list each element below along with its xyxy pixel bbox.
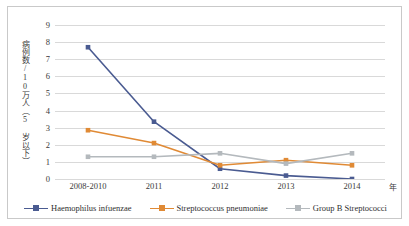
y-tick-label: 9: [46, 21, 50, 30]
data-point-marker: [350, 163, 355, 168]
y-tick-label: 4: [46, 106, 50, 115]
gridline: [55, 179, 385, 180]
y-tick-label: 0: [46, 175, 50, 184]
legend-item[interactable]: Haemophilus infuenzae: [24, 203, 131, 213]
y-tick-label: 1: [46, 158, 50, 167]
data-point-marker: [86, 45, 91, 50]
chart-legend: Haemophilus infuenzaeStreptococcus pneum…: [16, 198, 395, 218]
data-point-marker: [284, 173, 289, 178]
x-axis-tick-labels: 2008-20102011201220132014: [55, 181, 385, 195]
data-point-marker: [152, 141, 157, 146]
legend-label: Haemophilus infuenzae: [51, 203, 131, 213]
data-point-marker: [218, 163, 223, 168]
data-point-marker: [350, 151, 355, 156]
legend-swatch-icon: [150, 204, 174, 213]
chart-frame: 病例数/10万人（5 岁以下） 0123456789 2008-20102011…: [7, 6, 402, 219]
x-tick-label: 2008-2010: [70, 181, 107, 191]
line-chart-svg: [55, 25, 385, 179]
y-axis-tick-labels: 0123456789: [8, 7, 55, 197]
legend-item[interactable]: Streptococcus pneumoniae: [150, 203, 268, 213]
legend-label: Streptococcus pneumoniae: [177, 203, 268, 213]
y-tick-label: 2: [46, 141, 50, 150]
legend-swatch-icon: [24, 204, 48, 213]
data-point-marker: [284, 161, 289, 166]
legend-item[interactable]: Group B Streptococci: [286, 203, 387, 213]
legend-swatch-icon: [286, 204, 310, 213]
data-point-marker: [152, 154, 157, 159]
x-axis-title: 年: [389, 181, 397, 192]
y-tick-label: 3: [46, 123, 50, 132]
x-tick-label: 2011: [146, 181, 163, 191]
y-tick-label: 5: [46, 89, 50, 98]
data-point-marker: [218, 151, 223, 156]
y-tick-label: 8: [46, 38, 50, 47]
data-point-marker: [86, 154, 91, 159]
y-tick-label: 6: [46, 72, 50, 81]
legend-label: Group B Streptococci: [313, 203, 387, 213]
data-point-marker: [350, 177, 355, 179]
x-tick-label: 2013: [278, 181, 295, 191]
data-point-marker: [86, 128, 91, 133]
plot-area: [55, 25, 385, 179]
y-tick-label: 7: [46, 55, 50, 64]
data-point-marker: [152, 119, 157, 124]
series-canvas: [55, 25, 385, 179]
x-tick-label: 2012: [212, 181, 229, 191]
chart-page: 病例数/10万人（5 岁以下） 0123456789 2008-20102011…: [0, 0, 409, 226]
x-tick-label: 2014: [344, 181, 361, 191]
